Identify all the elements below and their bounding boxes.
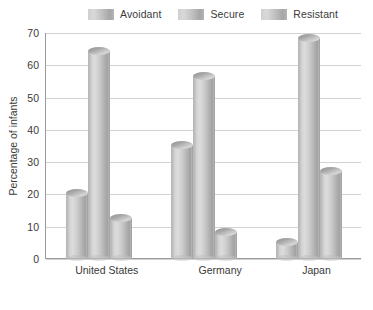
y-axis-tick-label: 70 (27, 27, 39, 39)
y-axis-tick-label: 30 (27, 156, 39, 168)
legend-item-label: Secure (210, 8, 244, 20)
y-axis-tick-label: 40 (27, 124, 39, 136)
bar-japan-secure[interactable] (298, 38, 320, 258)
bar-united-states-resistant[interactable] (110, 218, 132, 258)
y-axis-title: Percentage of infants (6, 33, 20, 259)
y-axis-title-label: Percentage of infants (7, 96, 19, 195)
x-axis-ticks: United StatesGermanyJapan (45, 264, 361, 276)
legend-item-label: Avoidant (120, 8, 161, 20)
bar-group-germany (171, 33, 237, 258)
y-axis-tick-label: 0 (33, 253, 39, 265)
y-axis-tick-label: 20 (27, 188, 39, 200)
bar-chart-figure: AvoidantSecureResistant Percentage of in… (0, 0, 373, 310)
bar-japan-avoidant[interactable] (276, 242, 298, 258)
bar-groups (46, 33, 361, 258)
legend-item-avoidant[interactable]: Avoidant (88, 8, 161, 20)
x-axis-tick-label: Germany (199, 264, 242, 276)
y-axis-tick-label: 60 (27, 59, 39, 71)
bar-column (276, 242, 298, 258)
bar-group-united-states (66, 33, 132, 258)
bar-column (298, 38, 320, 258)
legend-swatch-icon (178, 9, 204, 20)
bar-group-japan (276, 33, 342, 258)
bar-germany-resistant[interactable] (215, 232, 237, 258)
plot-area: 706050403020100 (45, 33, 361, 259)
bar-germany-secure[interactable] (193, 76, 215, 258)
bar-japan-resistant[interactable] (320, 171, 342, 258)
legend-swatch-icon (88, 9, 114, 20)
y-axis-tick-label: 50 (27, 92, 39, 104)
bar-germany-avoidant[interactable] (171, 145, 193, 258)
legend-item-secure[interactable]: Secure (178, 8, 244, 20)
y-axis-tick-label: 10 (27, 221, 39, 233)
legend-item-label: Resistant (293, 8, 338, 20)
bar-column (193, 76, 215, 258)
bar-column (66, 193, 88, 258)
bar-united-states-secure[interactable] (88, 51, 110, 258)
chart-legend: AvoidantSecureResistant (88, 6, 338, 22)
x-axis-tick-label: Japan (302, 264, 331, 276)
bar-column (110, 218, 132, 258)
bar-column (171, 145, 193, 258)
bar-column (88, 51, 110, 258)
bar-column (215, 232, 237, 258)
legend-swatch-icon (261, 9, 287, 20)
bar-column (320, 171, 342, 258)
legend-item-resistant[interactable]: Resistant (261, 8, 338, 20)
x-axis-tick-label: United States (75, 264, 138, 276)
bar-united-states-avoidant[interactable] (66, 193, 88, 258)
